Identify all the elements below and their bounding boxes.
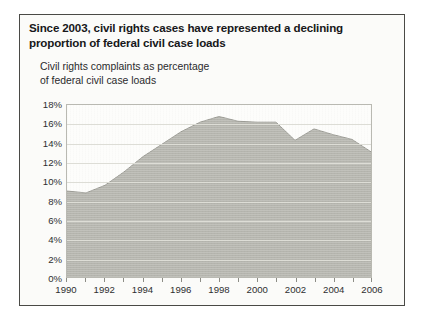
gridline	[67, 240, 371, 241]
y-axis-tick-label: 2%	[22, 253, 62, 264]
plot-area	[66, 104, 372, 278]
x-axis-tick-label: 1998	[208, 284, 229, 295]
x-axis-tick-label: 2002	[285, 284, 306, 295]
x-axis-tick	[162, 278, 163, 282]
x-axis-tick	[104, 278, 105, 282]
x-axis-tick	[85, 278, 86, 282]
x-axis-tick	[315, 278, 316, 282]
chart-subtitle-line-2: of federal civil case loads	[40, 74, 340, 88]
x-axis-tick	[143, 278, 144, 282]
y-axis-tick-label: 6%	[22, 215, 62, 226]
x-axis-tick-label: 1992	[94, 284, 115, 295]
x-axis-tick-label: 1990	[55, 284, 76, 295]
y-axis-tick-label: 4%	[22, 234, 62, 245]
chart-subtitle-line-1: Civil rights complaints as percentage	[40, 60, 340, 74]
gridline	[67, 163, 371, 164]
y-axis-tick-label: 12%	[22, 157, 62, 168]
x-axis-tick	[238, 278, 239, 282]
y-axis-tick-label: 10%	[22, 176, 62, 187]
y-axis: 18%16%14%12%10%8%6%4%2%0%	[20, 104, 62, 278]
x-axis-tick	[371, 278, 372, 282]
x-axis-tick	[276, 278, 277, 282]
area-polygon	[67, 116, 371, 277]
x-axis-tick	[257, 278, 258, 282]
gridline	[67, 182, 371, 183]
y-axis-tick-label: 14%	[22, 137, 62, 148]
gridline	[67, 260, 371, 261]
x-axis-tick-label: 2000	[247, 284, 268, 295]
x-axis: 199019921994199619982000200220042006	[66, 278, 372, 302]
x-axis-tick-label: 2004	[323, 284, 344, 295]
chart-subtitle: Civil rights complaints as percentage of…	[40, 60, 340, 87]
gridline	[67, 124, 371, 125]
x-axis-tick-label: 1996	[170, 284, 191, 295]
gridline	[67, 202, 371, 203]
x-axis-tick	[123, 278, 124, 282]
y-axis-tick-label: 16%	[22, 118, 62, 129]
x-axis-tick	[334, 278, 335, 282]
x-axis-tick	[200, 278, 201, 282]
area-series	[67, 105, 371, 277]
x-axis-tick	[66, 278, 67, 282]
x-axis-tick	[296, 278, 297, 282]
figure-panel: Since 2003, civil rights cases have repr…	[19, 14, 405, 306]
x-axis-tick	[181, 278, 182, 282]
y-axis-tick-label: 0%	[22, 273, 62, 284]
x-axis-tick	[219, 278, 220, 282]
x-axis-tick	[353, 278, 354, 282]
gridline	[67, 221, 371, 222]
y-axis-tick-label: 18%	[22, 99, 62, 110]
chart-title: Since 2003, civil rights cases have repr…	[29, 21, 395, 50]
x-axis-tick-label: 2006	[361, 284, 382, 295]
x-axis-tick-label: 1994	[132, 284, 153, 295]
y-axis-tick-label: 8%	[22, 195, 62, 206]
gridline	[67, 144, 371, 145]
